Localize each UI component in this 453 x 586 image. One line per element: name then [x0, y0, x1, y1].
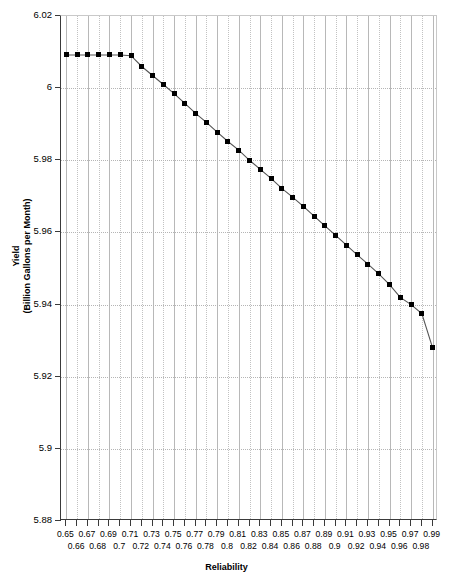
x-axis-tick-label: 0.99 — [417, 530, 447, 539]
x-axis-tick — [356, 520, 357, 526]
x-axis-tick — [292, 520, 293, 526]
y-axis-tick-label: 5.92 — [4, 371, 52, 381]
x-axis-tick — [249, 520, 250, 526]
x-axis-tick — [141, 520, 142, 526]
x-axis-tick — [98, 520, 99, 526]
x-axis-tick — [130, 520, 131, 526]
x-axis-tick — [108, 520, 109, 526]
x-axis-tick — [421, 520, 422, 526]
x-axis-tick — [345, 520, 346, 526]
data-point-marker — [398, 295, 403, 300]
x-axis-tick — [399, 520, 400, 526]
y-axis-tick-label: 5.96 — [4, 226, 52, 236]
data-point-marker — [161, 82, 166, 87]
y-axis-tick-label: 5.94 — [4, 299, 52, 309]
x-axis-tick — [378, 520, 379, 526]
data-point-marker — [279, 186, 284, 191]
data-point-marker — [290, 195, 295, 200]
data-point-marker — [193, 111, 198, 116]
x-axis-tick — [65, 520, 66, 526]
data-point-marker — [269, 176, 274, 181]
x-axis-tick — [195, 520, 196, 526]
x-axis-tick — [119, 520, 120, 526]
x-axis-tick — [281, 520, 282, 526]
x-axis-tick — [216, 520, 217, 526]
x-axis-tick — [87, 520, 88, 526]
plot-area — [60, 15, 437, 520]
data-point-marker — [258, 167, 263, 172]
y-axis-tick-label: 6.02 — [4, 10, 52, 20]
x-axis-tick — [227, 520, 228, 526]
x-axis-tick — [324, 520, 325, 526]
x-axis-tick — [238, 520, 239, 526]
x-axis-tick — [410, 520, 411, 526]
x-axis-tick — [313, 520, 314, 526]
y-axis-tick-label: 5.9 — [4, 443, 52, 453]
data-point-marker — [204, 120, 209, 125]
data-point-marker — [139, 64, 144, 69]
chart-canvas: Yield (Billion Gallons per Month) 5.885.… — [0, 0, 453, 586]
data-point-marker — [129, 53, 134, 58]
data-point-marker — [75, 52, 80, 57]
data-point-marker — [85, 52, 90, 57]
data-point-marker — [247, 158, 252, 163]
x-axis-tick — [432, 520, 433, 526]
x-axis-tick — [173, 520, 174, 526]
data-point-marker — [107, 52, 112, 57]
data-point-marker — [419, 311, 424, 316]
y-axis-tick-label: 5.98 — [4, 154, 52, 164]
data-point-marker — [118, 52, 123, 57]
x-axis-tick — [76, 520, 77, 526]
data-point-marker — [215, 130, 220, 135]
x-axis-tick — [367, 520, 368, 526]
data-point-marker — [409, 302, 414, 307]
data-point-marker — [430, 345, 435, 350]
x-axis-tick — [259, 520, 260, 526]
data-point-marker — [333, 233, 338, 238]
data-point-marker — [322, 223, 327, 228]
x-axis-tick — [205, 520, 206, 526]
y-axis-tick-label: 6 — [4, 82, 52, 92]
data-point-marker — [225, 139, 230, 144]
x-axis-tick — [152, 520, 153, 526]
x-axis-tick — [335, 520, 336, 526]
data-point-marker — [387, 282, 392, 287]
data-point-marker — [172, 91, 177, 96]
y-axis-tick-label: 5.88 — [4, 515, 52, 525]
data-point-marker — [236, 148, 241, 153]
x-axis-tick — [389, 520, 390, 526]
data-point-marker — [150, 73, 155, 78]
data-point-marker — [365, 262, 370, 267]
data-point-marker — [182, 101, 187, 106]
x-axis-tick — [302, 520, 303, 526]
x-axis-tick — [162, 520, 163, 526]
data-point-marker — [344, 243, 349, 248]
x-axis-tick — [184, 520, 185, 526]
data-point-marker — [312, 214, 317, 219]
data-point-marker — [355, 252, 360, 257]
data-point-marker — [301, 204, 306, 209]
data-point-marker — [376, 271, 381, 276]
x-axis-tick — [270, 520, 271, 526]
series-markers — [61, 16, 438, 521]
x-axis-tick-label: 0.98 — [406, 542, 436, 551]
data-point-marker — [64, 52, 69, 57]
x-axis-title: Reliability — [0, 562, 453, 572]
data-point-marker — [96, 52, 101, 57]
